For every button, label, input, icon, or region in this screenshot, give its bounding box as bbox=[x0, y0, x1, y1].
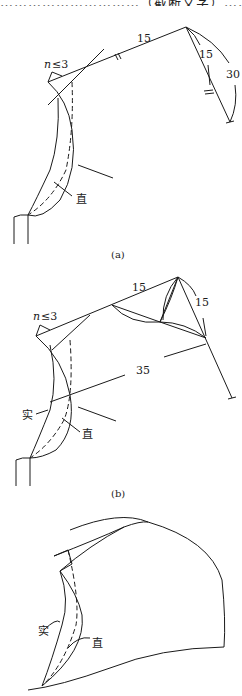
cross-line bbox=[52, 315, 90, 350]
neck-notch bbox=[36, 325, 50, 336]
pointer-line bbox=[78, 407, 116, 421]
dim-top: 15 bbox=[137, 32, 151, 45]
armhole-dashed bbox=[30, 340, 71, 458]
armhole-dashed bbox=[42, 550, 77, 686]
figure-c: 实 直 bbox=[28, 518, 225, 691]
caption-a: (a) bbox=[111, 249, 125, 260]
figure-a: n ≤3 15 15 30 直 (a) bbox=[14, 27, 240, 260]
tick-mark bbox=[205, 93, 214, 94]
shoulder-line bbox=[36, 277, 178, 336]
caption-b: (b) bbox=[111, 488, 125, 499]
construction-line bbox=[112, 305, 160, 322]
armhole-inner bbox=[28, 98, 58, 215]
label-solid: 实 bbox=[38, 624, 49, 638]
arc-30-lower bbox=[230, 85, 236, 122]
figure-b: n ≤3 15 15 35 实 直 (b) bbox=[16, 277, 236, 499]
pointer-line bbox=[36, 410, 48, 414]
dim-side: 15 bbox=[199, 48, 213, 61]
label-solid: 实 bbox=[22, 408, 33, 422]
arc-15 bbox=[178, 277, 196, 296]
label-straight: 直 bbox=[76, 192, 87, 206]
pointer-line bbox=[78, 165, 113, 178]
n-label-var: n bbox=[33, 310, 40, 323]
sleeve-line bbox=[186, 27, 230, 122]
dim-arc: 30 bbox=[226, 68, 240, 81]
dim-top: 15 bbox=[132, 281, 146, 294]
pattern-diagram: n ≤3 15 15 30 直 (a) bbox=[0, 0, 242, 696]
dim-line-35 bbox=[164, 344, 206, 357]
side-seam-top bbox=[14, 215, 28, 217]
label-straight: 直 bbox=[92, 636, 103, 650]
sleeve-cap-curve bbox=[70, 518, 225, 648]
dim-side: 15 bbox=[195, 296, 209, 309]
label-straight: 直 bbox=[82, 427, 93, 441]
n-label-rest: ≤3 bbox=[41, 310, 57, 323]
armhole-dashed bbox=[28, 82, 72, 215]
tick-mark bbox=[204, 90, 213, 91]
shoulder-line bbox=[48, 27, 186, 82]
shoulder-line-inner bbox=[60, 527, 124, 571]
n-label-rest: ≤3 bbox=[52, 58, 68, 71]
dim-line-35 bbox=[50, 375, 125, 402]
dim-long: 35 bbox=[136, 364, 150, 377]
n-label-var: n bbox=[44, 58, 51, 71]
side-seam-top bbox=[16, 458, 30, 460]
hem-curve bbox=[28, 647, 224, 690]
